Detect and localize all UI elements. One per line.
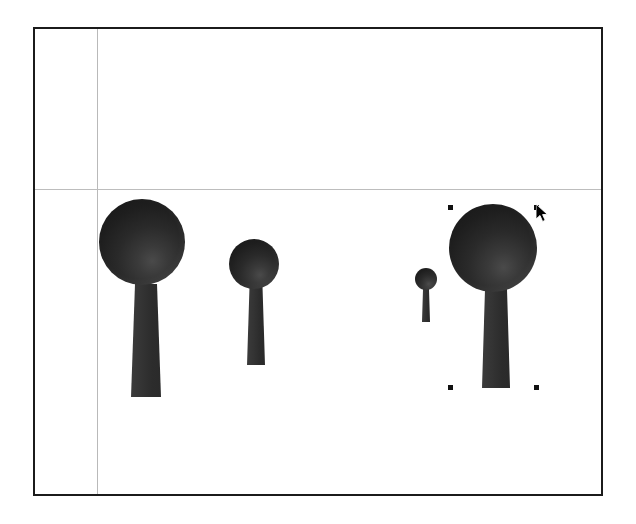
tree-4-canopy: [449, 204, 537, 292]
handle-bottom-right[interactable]: [534, 385, 539, 390]
drawing-canvas[interactable]: [33, 27, 603, 496]
tree-3-trunk: [422, 289, 430, 322]
app-root: [0, 0, 636, 524]
handle-top-left[interactable]: [448, 205, 453, 210]
horizontal-guide[interactable]: [35, 189, 601, 190]
tree-1-trunk: [131, 284, 161, 397]
tree-4-trunk: [482, 289, 510, 388]
handle-top-right[interactable]: [534, 205, 539, 210]
tree-3-canopy: [415, 268, 437, 290]
tree-2-canopy: [229, 239, 279, 289]
tree-2-trunk: [247, 287, 265, 365]
handle-bottom-left[interactable]: [448, 385, 453, 390]
vertical-guide[interactable]: [97, 29, 98, 494]
tree-1-canopy: [99, 199, 185, 285]
